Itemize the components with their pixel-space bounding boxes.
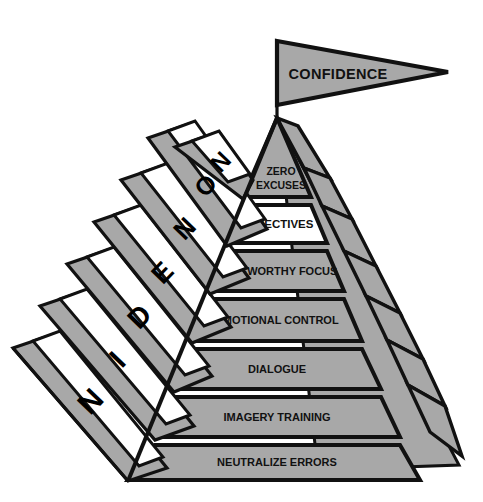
band-label-6: NEUTRALIZE ERRORS [217,456,337,468]
band-label-4: DIALOGUE [248,363,306,375]
pyramid-band-neutralize-errors[interactable]: NEUTRALIZE ERRORS [128,445,420,480]
band-label-0-line2: EXCUSES [256,179,306,191]
confidence-pyramid-diagram: CONFIDENCE ZERO EXCUSES [0,0,483,502]
confidence-flag: CONFIDENCE [277,41,448,105]
flag-label: CONFIDENCE [289,66,388,82]
pyramid-band-imagery-training[interactable]: IMAGERY TRAINING [155,397,400,437]
band-label-0-line1: ZERO [266,165,295,177]
band-label-5: IMAGERY TRAINING [224,411,331,423]
band-label-3: EMOTIONAL CONTROL [215,314,339,326]
diagram-canvas: CONFIDENCE ZERO EXCUSES [0,0,483,502]
